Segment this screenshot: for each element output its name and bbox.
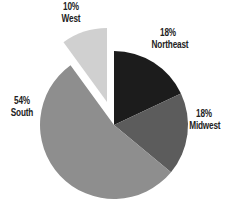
label-west: 10% West xyxy=(59,1,84,25)
label-northeast: 18% Northeast xyxy=(152,27,185,51)
label-northeast-name: Northeast xyxy=(152,39,185,51)
label-midwest-pct: 18% xyxy=(189,108,219,120)
pie-slices xyxy=(40,28,188,199)
label-west-pct: 10% xyxy=(59,1,84,13)
label-west-name: West xyxy=(59,13,84,25)
label-south-name: South xyxy=(10,107,35,119)
pie-chart xyxy=(0,0,230,212)
label-midwest: 18% Midwest xyxy=(189,108,219,132)
label-south: 54% South xyxy=(10,95,35,119)
label-northeast-pct: 18% xyxy=(152,27,185,39)
label-south-pct: 54% xyxy=(10,95,35,107)
label-midwest-name: Midwest xyxy=(189,120,219,132)
